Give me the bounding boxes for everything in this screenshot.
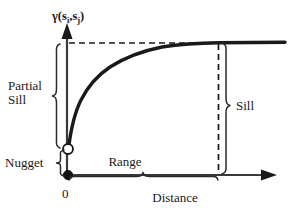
gamma-paren-open: (s: [58, 9, 67, 23]
nugget-brace-group: Nugget: [5, 150, 64, 176]
semivariogram-curve: [69, 42, 286, 148]
x-axis-arrow-icon: [261, 170, 277, 181]
origin-filled-point-marker: [63, 170, 72, 179]
reference-lines-group: [69, 43, 219, 174]
gamma-comma-s: ,s: [69, 9, 77, 23]
y-axis-arrow-icon: [62, 23, 73, 39]
origin-label: 0: [62, 186, 69, 201]
sill-brace-icon: [222, 43, 230, 174]
range-label: Range: [108, 154, 141, 169]
partial-sill-brace-icon: [53, 44, 61, 148]
range-brace-icon: [69, 173, 218, 181]
sill-label: Sill: [236, 98, 254, 113]
partial-sill-brace-group: Partial Sill: [8, 44, 60, 148]
range-brace-group: Range: [69, 154, 218, 180]
nugget-label: Nugget: [5, 155, 44, 170]
nugget-open-point-marker: [63, 144, 73, 154]
gamma-paren-close: ): [80, 9, 84, 23]
x-axis-label: Distance: [152, 190, 198, 205]
partial-sill-label-line2: Sill: [8, 92, 26, 107]
semivariogram-curve-group: [69, 42, 286, 148]
y-axis-label: γ(si,sj): [51, 9, 84, 25]
semivariogram-figure: Partial Sill Nugget Sill Range γ(si,sj) …: [0, 0, 294, 212]
nugget-brace-icon: [57, 150, 65, 176]
partial-sill-label-line1: Partial: [8, 78, 42, 93]
sill-brace-group: Sill: [222, 43, 254, 174]
